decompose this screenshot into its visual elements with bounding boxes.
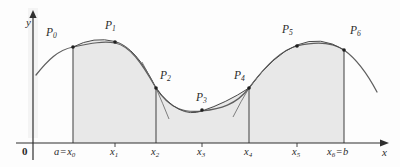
point-label-P3: P3 (196, 92, 207, 104)
point-marker-P2 (154, 86, 158, 90)
tick-label-x1: x1 (110, 147, 118, 158)
point-label-P0: P0 (46, 27, 57, 39)
x-axis-label: x (382, 147, 387, 158)
figure-canvas (0, 0, 400, 167)
point-marker-P6 (342, 48, 346, 52)
point-label-P2: P2 (160, 70, 171, 82)
tick-label-x5: x5 (292, 147, 300, 158)
origin-label: 0 (22, 146, 28, 157)
tick-label-x4: x4 (244, 147, 252, 158)
x-tick-marks-group (115, 143, 297, 147)
point-label-P6: P6 (350, 25, 361, 37)
point-marker-P1 (113, 40, 117, 44)
tick-label-x6: x6=b (327, 147, 348, 158)
tick-label-x2: x2 (151, 147, 159, 158)
point-marker-P4 (247, 86, 251, 90)
shaded-area-3 (249, 42, 344, 143)
tick-label-x3: x3 (197, 147, 205, 158)
point-label-P5: P5 (282, 24, 293, 36)
y-axis-label: y (26, 17, 31, 28)
point-label-P4: P4 (234, 70, 245, 82)
point-label-P1: P1 (105, 20, 116, 32)
point-marker-P5 (295, 44, 299, 48)
shaded-area-group (73, 40, 344, 143)
simpsons-rule-figure: y x 0 P0 P1 P2 P3 P4 P5 P6 a=x0 x1 x2 x3… (0, 0, 400, 167)
point-marker-P0 (71, 45, 75, 49)
tick-label-x0: a=x0 (54, 147, 75, 158)
shaded-area (73, 40, 156, 143)
point-marker-P3 (200, 108, 204, 112)
